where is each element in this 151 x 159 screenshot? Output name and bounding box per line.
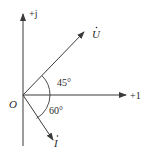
svg-text:I: I <box>53 137 59 149</box>
real-axis-label: +1 <box>130 90 141 101</box>
phasor-u-arrow <box>23 32 84 95</box>
dot-accent-icon <box>57 135 59 137</box>
phasor-i-label: I <box>53 135 59 149</box>
angle-arc-45 <box>42 76 50 95</box>
angle-label-60: 60° <box>49 105 63 116</box>
angle-label-45: 45° <box>57 77 71 88</box>
imaginary-axis-label: +j <box>29 8 37 19</box>
origin-label: O <box>9 98 17 110</box>
phasor-u-label: U <box>92 27 101 40</box>
dot-accent-icon <box>96 27 98 29</box>
angle-arc-60 <box>37 95 51 118</box>
phasor-diagram: +j +1 O U I 45° 60° <box>0 0 151 159</box>
svg-text:U: U <box>92 28 101 40</box>
